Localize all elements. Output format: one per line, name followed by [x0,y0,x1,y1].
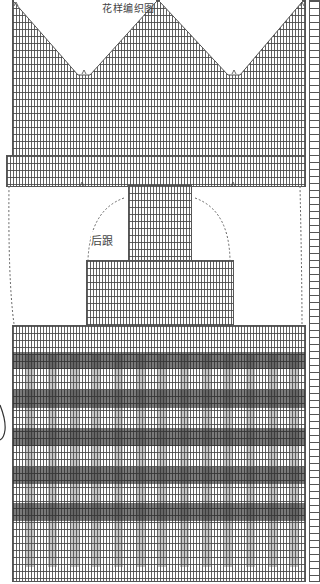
toe-cutout-right [160,0,302,75]
side-curve-right [300,186,302,324]
heel-curve-left [88,198,124,260]
side-curve-left [9,186,14,324]
side-bracket [0,405,5,440]
heel-label: 后跟 [91,232,113,248]
heel-curve-right [195,198,230,260]
chart-title: 花样编织图 [102,0,155,15]
diagram-overlay [0,0,320,584]
